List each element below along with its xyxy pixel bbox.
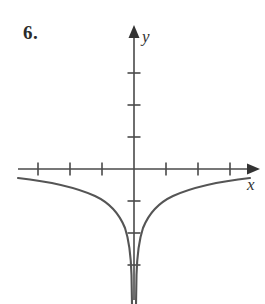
curve-right-branch bbox=[136, 178, 250, 304]
x-axis-arrowhead bbox=[247, 164, 260, 175]
coordinate-plane-graph: y x bbox=[0, 0, 265, 304]
x-axis-label: x bbox=[246, 175, 255, 194]
curve-left-branch bbox=[18, 178, 132, 304]
y-axis-arrowhead bbox=[129, 25, 140, 38]
exercise-figure: 6. y x bbox=[0, 0, 265, 304]
y-axis-label: y bbox=[140, 27, 150, 46]
